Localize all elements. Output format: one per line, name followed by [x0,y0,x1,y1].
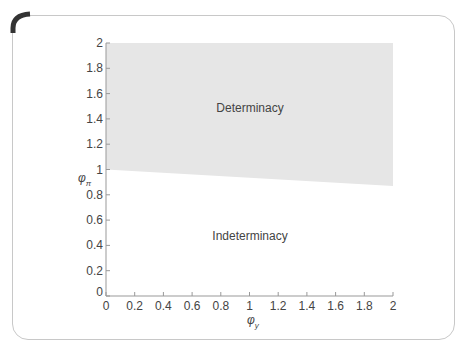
y-tick-label: 1.6 [86,87,103,101]
y-tick-label: 1 [96,163,103,177]
x-tick-label: 0.8 [212,299,229,313]
y-axis-label: φπ [78,171,92,188]
x-tick-label: 1.6 [327,299,344,313]
x-tick-label: 1.2 [270,299,287,313]
x-tick-label: 0.4 [155,299,172,313]
y-tick-label: 1.4 [86,112,103,126]
x-tick-label: 0.2 [126,299,143,313]
y-tick-label: 0.4 [86,238,103,252]
x-tick-label: 1.8 [356,299,373,313]
x-tick-label: 1 [246,299,253,313]
y-tick-label: 0 [96,285,103,299]
x-tick-label: 0 [103,299,110,313]
y-tick-label: 0.2 [86,264,103,278]
x-axis-label: φy [247,313,260,330]
x-axis-ticks: 00.20.40.60.811.21.41.61.82 [103,292,397,313]
chart: 00.20.40.60.811.21.41.61.82 00.20.40.60.… [0,0,470,360]
y-tick-label: 1.8 [86,61,103,75]
determinacy-label: Determinacy [216,101,283,115]
y-tick-label: 1.2 [86,137,103,151]
y-tick-label: 0.6 [86,213,103,227]
x-tick-label: 0.6 [184,299,201,313]
y-tick-label: 0.8 [86,188,103,202]
y-tick-label: 2 [96,36,103,50]
x-tick-label: 1.4 [299,299,316,313]
x-tick-label: 2 [390,299,397,313]
indeterminacy-label: Indeterminacy [212,229,287,243]
